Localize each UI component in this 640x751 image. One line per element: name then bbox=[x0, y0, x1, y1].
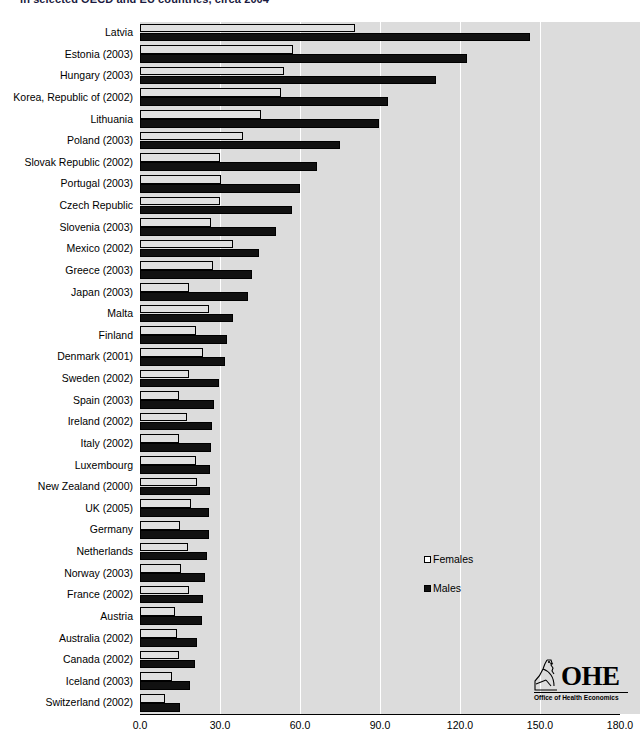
bar-row: Finland bbox=[0, 325, 640, 347]
bar-males bbox=[140, 184, 300, 193]
bar-females bbox=[140, 586, 189, 595]
bar-row: Hungary (2003) bbox=[0, 65, 640, 87]
bar-males bbox=[140, 638, 197, 647]
bar-males bbox=[140, 227, 276, 236]
bar-row: Spain (2003) bbox=[0, 390, 640, 412]
bar-row: Austria bbox=[0, 606, 640, 628]
bar-females bbox=[140, 88, 281, 97]
bar-row: Germany bbox=[0, 519, 640, 541]
bar-row: Portugal (2003) bbox=[0, 173, 640, 195]
bar-females bbox=[140, 283, 189, 292]
bar-males bbox=[140, 595, 203, 604]
bar-rows: LatviaEstonia (2003)Hungary (2003)Korea,… bbox=[0, 22, 640, 714]
bar-females bbox=[140, 326, 196, 335]
bar-females bbox=[140, 694, 165, 703]
bar-females bbox=[140, 153, 220, 162]
bar-females bbox=[140, 218, 211, 227]
bar-males bbox=[140, 76, 436, 85]
category-label: UK (2005) bbox=[0, 501, 133, 515]
bar-males bbox=[140, 443, 211, 452]
bar-males bbox=[140, 530, 209, 539]
ohe-logo: OHE Office of Health Economics bbox=[533, 658, 629, 706]
bar-females bbox=[140, 413, 187, 422]
bar-row: Italy (2002) bbox=[0, 433, 640, 455]
bar-males bbox=[140, 270, 252, 279]
bar-row: New Zealand (2000) bbox=[0, 476, 640, 498]
category-label: Spain (2003) bbox=[0, 393, 133, 407]
bar-males bbox=[140, 206, 292, 215]
bar-row: Netherlands bbox=[0, 541, 640, 563]
bar-males bbox=[140, 97, 388, 106]
legend-item-males: Males bbox=[424, 581, 461, 595]
category-label: Poland (2003) bbox=[0, 133, 133, 147]
bar-males bbox=[140, 400, 214, 409]
category-label: Germany bbox=[0, 522, 133, 536]
bar-females bbox=[140, 629, 177, 638]
category-label: Czech Republic bbox=[0, 198, 133, 212]
bar-males bbox=[140, 162, 317, 171]
bar-row: Slovak Republic (2002) bbox=[0, 152, 640, 174]
bar-females bbox=[140, 521, 180, 530]
bar-row: Latvia bbox=[0, 22, 640, 44]
bar-females bbox=[140, 434, 179, 443]
bar-females bbox=[140, 456, 196, 465]
bar-males bbox=[140, 508, 209, 517]
bar-males bbox=[140, 681, 190, 690]
bar-row: Luxembourg bbox=[0, 455, 640, 477]
bar-row: Czech Republic bbox=[0, 195, 640, 217]
bar-males bbox=[140, 357, 225, 366]
bar-females bbox=[140, 391, 179, 400]
bar-females bbox=[140, 175, 221, 184]
bar-females bbox=[140, 197, 220, 206]
bar-row: Estonia (2003) bbox=[0, 44, 640, 66]
category-label: Luxembourg bbox=[0, 458, 133, 472]
category-label: Netherlands bbox=[0, 544, 133, 558]
bar-males bbox=[140, 314, 233, 323]
bar-row: Poland (2003) bbox=[0, 130, 640, 152]
x-tick-label: 60.0 bbox=[277, 719, 323, 731]
bar-males bbox=[140, 249, 259, 258]
category-label: Slovak Republic (2002) bbox=[0, 155, 133, 169]
bar-females bbox=[140, 543, 188, 552]
legend-swatch-males-icon bbox=[424, 585, 431, 592]
bar-males bbox=[140, 487, 210, 496]
bar-females bbox=[140, 348, 203, 357]
bar-females bbox=[140, 45, 293, 54]
category-label: Italy (2002) bbox=[0, 436, 133, 450]
bar-females bbox=[140, 499, 191, 508]
category-label: Hungary (2003) bbox=[0, 68, 133, 82]
bar-row: France (2002) bbox=[0, 584, 640, 606]
category-label: Australia (2002) bbox=[0, 631, 133, 645]
category-label: France (2002) bbox=[0, 587, 133, 601]
bar-row: Korea, Republic of (2002) bbox=[0, 87, 640, 109]
bar-females bbox=[140, 370, 189, 379]
bar-row: Japan (2003) bbox=[0, 282, 640, 304]
x-tick-label: 180.0 bbox=[597, 719, 640, 731]
x-tick-label: 120.0 bbox=[437, 719, 483, 731]
bar-males bbox=[140, 33, 530, 42]
category-label: Japan (2003) bbox=[0, 285, 133, 299]
category-label: Switzerland (2002) bbox=[0, 695, 133, 709]
category-label: Portugal (2003) bbox=[0, 176, 133, 190]
category-label: New Zealand (2000) bbox=[0, 479, 133, 493]
category-label: Austria bbox=[0, 609, 133, 623]
bar-males bbox=[140, 54, 467, 63]
bar-row: Denmark (2001) bbox=[0, 346, 640, 368]
category-label: Estonia (2003) bbox=[0, 47, 133, 61]
bar-males bbox=[140, 119, 379, 128]
ohe-subtitle: Office of Health Economics bbox=[534, 692, 628, 701]
x-tick-label: 90.0 bbox=[357, 719, 403, 731]
bar-females bbox=[140, 651, 179, 660]
bar-males bbox=[140, 660, 195, 669]
chart-title: in selected OECD and EU countries, circa… bbox=[20, 0, 269, 5]
x-tick-label: 0.0 bbox=[117, 719, 163, 731]
bar-males bbox=[140, 379, 219, 388]
ohe-acronym: OHE bbox=[561, 662, 620, 690]
category-label: Finland bbox=[0, 328, 133, 342]
legend-label-males: Males bbox=[433, 582, 461, 594]
bar-row: Norway (2003) bbox=[0, 563, 640, 585]
bar-row: Lithuania bbox=[0, 109, 640, 131]
bar-row: Greece (2003) bbox=[0, 260, 640, 282]
x-axis-line bbox=[140, 714, 620, 715]
legend-swatch-females-icon bbox=[424, 556, 431, 563]
